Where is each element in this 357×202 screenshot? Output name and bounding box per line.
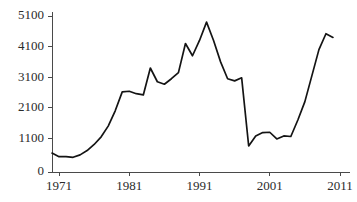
data-series-line <box>52 22 333 157</box>
y-tick-label: 2100 <box>18 99 44 114</box>
y-tick-label: 4100 <box>18 38 44 53</box>
x-tick-label: 2011 <box>327 178 353 193</box>
x-tick-label: 2001 <box>257 178 283 193</box>
y-tick-label: 1100 <box>18 130 44 145</box>
line-chart: 011002100310041005100 197119811991200120… <box>0 0 357 202</box>
x-axis-ticks: 19711981199120012011 <box>46 172 353 193</box>
chart-canvas: 011002100310041005100 197119811991200120… <box>0 0 357 202</box>
x-tick-label: 1971 <box>46 178 72 193</box>
x-tick-label: 1991 <box>187 178 213 193</box>
x-tick-label: 1981 <box>116 178 142 193</box>
y-tick-label: 5100 <box>18 7 44 22</box>
y-tick-label: 0 <box>38 163 45 178</box>
y-tick-label: 3100 <box>18 69 44 84</box>
y-axis-ticks: 011002100310041005100 <box>18 7 52 178</box>
